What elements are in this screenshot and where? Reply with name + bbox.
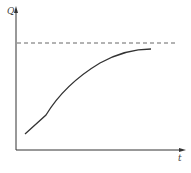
growth-curve (25, 49, 151, 134)
x-axis-label: t (178, 153, 182, 163)
chart-canvas (0, 0, 191, 173)
y-axis-label: Q (7, 6, 14, 16)
y-axis-arrow-icon (14, 6, 18, 13)
x-axis-arrow-icon (179, 148, 186, 152)
